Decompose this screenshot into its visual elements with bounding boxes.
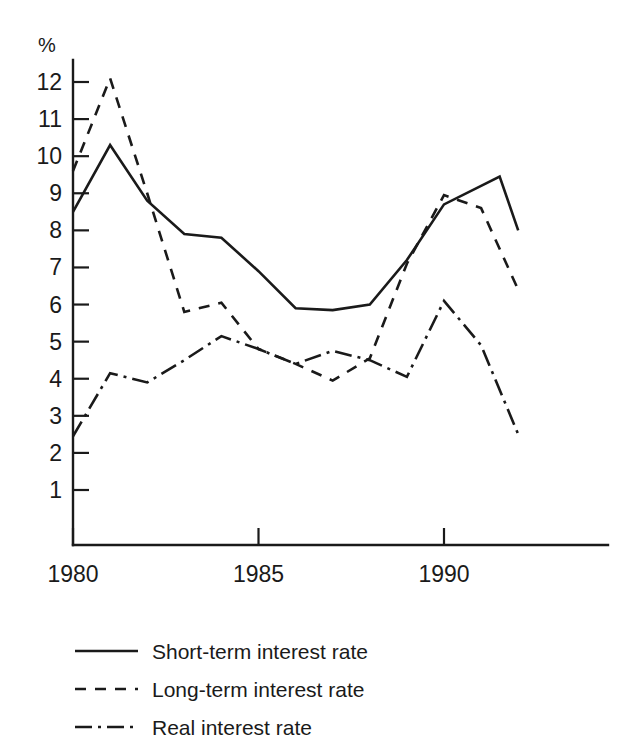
y-axis-unit-label: % <box>38 34 56 56</box>
interest-rate-line-chart: % 121110987654321 198019851990 Short-ter… <box>0 0 623 745</box>
chart-legend: Short-term interest rateLong-term intere… <box>75 640 368 739</box>
legend-label: Real interest rate <box>152 716 312 739</box>
x-tick-label: 1990 <box>418 561 469 587</box>
y-tick-label: 10 <box>36 143 62 169</box>
series-line-dash-dot <box>73 301 518 436</box>
legend-label: Long-term interest rate <box>152 678 364 701</box>
y-tick-label: 5 <box>49 329 62 355</box>
y-tick-label: 8 <box>49 217 62 243</box>
y-tick-label: 7 <box>49 254 62 280</box>
legend-label: Short-term interest rate <box>152 640 368 663</box>
y-tick-label: 11 <box>38 106 62 132</box>
y-tick-label: 1 <box>49 477 62 503</box>
y-axis-ticks <box>73 82 89 490</box>
series-line-solid <box>73 145 518 310</box>
chart-canvas: % 121110987654321 198019851990 Short-ter… <box>0 0 623 745</box>
y-tick-label: 6 <box>49 292 62 318</box>
x-axis-tick-labels: 198019851990 <box>47 561 469 587</box>
x-tick-label: 1980 <box>47 561 98 587</box>
y-tick-label: 9 <box>49 180 62 206</box>
y-tick-label: 4 <box>49 366 62 392</box>
y-axis-tick-labels: 121110987654321 <box>36 69 62 503</box>
data-series-group <box>73 78 518 436</box>
y-tick-label: 2 <box>49 440 62 466</box>
x-tick-label: 1985 <box>233 561 284 587</box>
x-axis-ticks <box>73 528 444 545</box>
y-tick-label: 3 <box>49 403 62 429</box>
y-tick-label: 12 <box>36 69 62 95</box>
series-line-dashed <box>73 78 518 380</box>
